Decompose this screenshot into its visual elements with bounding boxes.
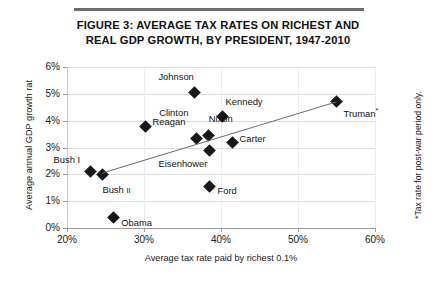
figure-container: FIGURE 3: AVERAGE TAX RATES ON RICHEST A…: [0, 0, 437, 292]
x-axis-line: [67, 228, 375, 229]
scatter-marker: [203, 180, 216, 193]
scatter-marker: [202, 129, 215, 142]
figure-title-line-1: FIGURE 3: AVERAGE TAX RATES ON RICHEST A…: [18, 18, 418, 33]
y-axis-title: Average annual GDP growth rat: [24, 60, 34, 230]
figure-footnote: *Tax rate for post-war period only.: [413, 65, 423, 245]
scatter-marker: [188, 86, 201, 99]
top-divider-rule: [74, 8, 364, 11]
x-tick-label: 60%: [352, 234, 398, 245]
scatter-point-label: Kennedy: [226, 96, 263, 107]
y-tick-label: 0%: [30, 222, 60, 233]
gridline-vertical: [144, 67, 145, 228]
scatter-point-label: Bush I: [54, 154, 81, 165]
scatter-marker: [203, 144, 216, 157]
scatter-point-label: Obama: [121, 217, 152, 228]
scatter-marker: [190, 132, 203, 145]
scatter-marker: [330, 96, 343, 109]
scatter-point-label: Bush II: [102, 184, 130, 195]
y-tick-label: 2%: [30, 168, 60, 179]
figure-title-line-2: REAL GDP GROWTH, BY PRESIDENT, 1947-2010: [18, 33, 418, 48]
y-tick-label: 4%: [30, 115, 60, 126]
scatter-marker: [84, 165, 97, 178]
y-axis-line: [67, 67, 68, 229]
figure-title: FIGURE 3: AVERAGE TAX RATES ON RICHEST A…: [18, 18, 418, 48]
x-axis-tick: [375, 228, 376, 232]
x-tick-label: 50%: [275, 234, 321, 245]
scatter-point-label: Truman*: [344, 107, 379, 119]
scatter-point-label: Nixon: [209, 113, 233, 124]
scatter-point-label: Reagan: [153, 116, 186, 127]
x-axis-title: Average tax rate paid by richest 0.1%: [67, 253, 375, 263]
x-tick-label: 30%: [121, 234, 167, 245]
scatter-point-label: Johnson: [158, 71, 193, 82]
scatter-marker: [107, 211, 120, 224]
x-tick-label: 40%: [198, 234, 244, 245]
y-tick-label: 5%: [30, 88, 60, 99]
gridline-vertical: [221, 67, 222, 228]
y-tick-label: 3%: [30, 142, 60, 153]
x-tick-label: 20%: [44, 234, 90, 245]
y-tick-label: 6%: [30, 61, 60, 72]
y-tick-label: 1%: [30, 195, 60, 206]
scatter-point-label: Carter: [240, 133, 266, 144]
gridline-vertical: [375, 67, 376, 228]
scatter-point-label: Ford: [217, 185, 236, 196]
scatter-point-label: Eisenhower: [158, 158, 207, 169]
scatter-marker: [96, 168, 109, 181]
gridline-vertical: [298, 67, 299, 228]
